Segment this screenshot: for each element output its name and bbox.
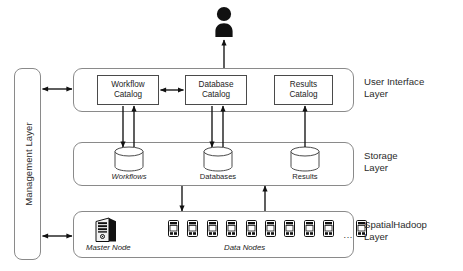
master-node-label: Master Node xyxy=(86,243,131,252)
user-actor-icon xyxy=(211,6,237,37)
data-node-icon[interactable] xyxy=(207,220,218,237)
storage-layer-caption: Storage Layer xyxy=(364,150,398,175)
results-catalog-box[interactable]: Results Catalog xyxy=(274,75,333,105)
management-layer-label: Management Layer xyxy=(22,122,33,205)
database-catalog-line1: Database xyxy=(198,80,233,91)
results-catalog-line2: Catalog xyxy=(289,90,317,101)
results-store-label: Results xyxy=(292,172,317,181)
data-node-icon[interactable] xyxy=(304,220,315,237)
databases-store-icon[interactable]: Databases xyxy=(203,146,233,172)
workflows-store-label: Workflows xyxy=(111,172,146,181)
data-node-icon[interactable] xyxy=(187,220,198,237)
workflow-catalog-line1: Workflow xyxy=(111,80,145,91)
management-layer-box: Management Layer xyxy=(14,68,41,260)
data-node-icon[interactable] xyxy=(246,220,257,237)
data-nodes-label: Data Nodes xyxy=(224,243,265,252)
architecture-diagram: Management Layer Workflow Catalog Databa… xyxy=(0,0,463,271)
workflow-catalog-line2: Catalog xyxy=(114,90,142,101)
database-catalog-box[interactable]: Database Catalog xyxy=(185,75,247,105)
data-node-icon[interactable] xyxy=(284,220,295,237)
workflows-store-icon[interactable]: Workflows xyxy=(114,146,144,172)
user-interface-layer-caption: User Interface Layer xyxy=(364,76,424,101)
results-catalog-line1: Results xyxy=(290,80,317,91)
spatialhadoop-layer-caption: SpatialHadoop Layer xyxy=(364,219,427,244)
databases-store-label: Databases xyxy=(200,172,236,181)
data-node-icon[interactable] xyxy=(168,220,179,237)
master-node-icon[interactable] xyxy=(95,217,117,242)
database-catalog-line2: Catalog xyxy=(202,90,230,101)
data-node-icon[interactable] xyxy=(265,220,276,237)
data-node-icon[interactable] xyxy=(226,220,237,237)
results-store-icon[interactable]: Results xyxy=(290,146,320,172)
workflow-catalog-box[interactable]: Workflow Catalog xyxy=(97,75,159,105)
data-nodes-ellipsis: ... xyxy=(344,231,353,240)
data-node-icon[interactable] xyxy=(323,220,334,237)
